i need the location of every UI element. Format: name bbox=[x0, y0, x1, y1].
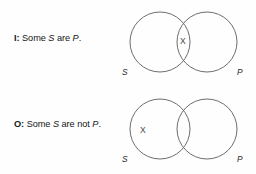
proposition-row-o: O: Some S are not P. X S P bbox=[0, 87, 256, 174]
venn-label-predicate-o: P bbox=[237, 155, 243, 164]
venn-label-subject-i: S bbox=[122, 68, 128, 77]
proposition-subject-o: S bbox=[53, 119, 59, 129]
venn-diagram-i: X S P bbox=[126, 6, 246, 84]
proposition-copula-o: are not bbox=[62, 119, 90, 129]
x-mark-subject-only-o: X bbox=[140, 126, 146, 135]
venn-label-predicate-i: P bbox=[237, 68, 243, 77]
venn-label-subject-o: S bbox=[122, 155, 128, 164]
venn-circle-subject-o bbox=[130, 99, 190, 159]
proposition-letter-o: O: bbox=[14, 119, 24, 129]
proposition-label-o: O: Some S are not P. bbox=[14, 119, 101, 130]
venn-diagram-o: X S P bbox=[126, 93, 246, 171]
proposition-period-o: . bbox=[98, 119, 101, 129]
proposition-row-i: I: Some S are P. X S P bbox=[0, 0, 256, 87]
proposition-label-i: I: Some S are P. bbox=[14, 33, 81, 44]
proposition-quantifier-i: Some bbox=[22, 33, 46, 43]
diagram-page: I: Some S are P. X S P O: Some S are not… bbox=[0, 0, 256, 174]
proposition-period-i: . bbox=[79, 33, 82, 43]
x-mark-intersection-i: X bbox=[180, 37, 186, 46]
venn-svg-i bbox=[126, 6, 246, 84]
venn-circle-predicate-i bbox=[177, 12, 237, 72]
proposition-quantifier-o: Some bbox=[27, 119, 51, 129]
proposition-subject-i: S bbox=[48, 33, 54, 43]
venn-circle-predicate-o bbox=[177, 99, 237, 159]
proposition-copula-i: are bbox=[57, 33, 70, 43]
